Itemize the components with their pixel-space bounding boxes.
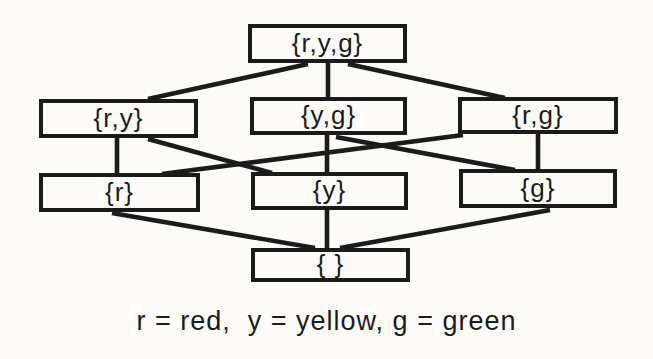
set-node-ryg: {r,y,g} [248,24,407,63]
set-node-label-y: {y} [313,177,346,205]
set-node-label-empty: { } [317,251,345,279]
legend-caption: r = red, y = yellow, g = green [0,306,653,337]
set-node-label-rg: {r,g} [512,102,563,130]
set-node-empty: { } [251,248,410,282]
set-node-label-r: {r} [105,179,134,207]
set-node-rg: {r,g} [458,97,618,134]
set-node-g: {g} [459,169,617,208]
set-node-ry: {r,y} [39,99,198,138]
set-node-yg: {y,g} [250,97,407,135]
set-node-label-g: {g} [521,175,556,203]
set-node-label-ryg: {r,y,g} [292,30,364,58]
set-node-label-yg: {y,g} [301,102,356,130]
hasse-diagram-figure: {r,y,g}{r,y}{y,g}{r,g}{r}{y}{g}{ } r = r… [0,0,653,359]
set-node-label-ry: {r,y} [94,105,144,133]
set-node-y: {y} [251,172,408,210]
set-node-r: {r} [39,173,200,212]
